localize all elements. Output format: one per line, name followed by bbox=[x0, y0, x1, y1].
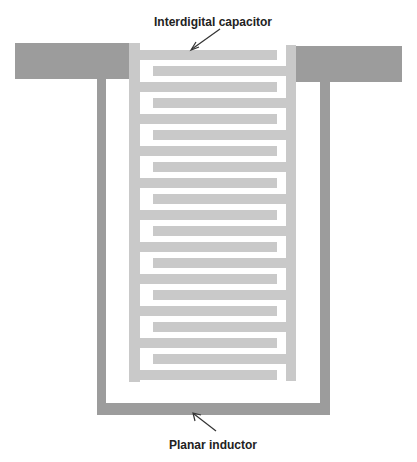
right-finger bbox=[153, 194, 286, 204]
capacitor-arrow bbox=[192, 29, 220, 49]
right-finger bbox=[153, 258, 286, 268]
lc-resonator-diagram bbox=[0, 0, 417, 462]
right-finger bbox=[153, 290, 286, 300]
left-finger bbox=[140, 178, 277, 188]
left-finger bbox=[140, 146, 277, 156]
inductor-arrow bbox=[194, 414, 216, 431]
capacitor-arrowhead-icon bbox=[191, 42, 199, 50]
right-finger bbox=[153, 226, 286, 236]
interdigital-capacitor bbox=[129, 43, 296, 382]
left-finger bbox=[140, 370, 277, 380]
inductor-left-leg bbox=[97, 43, 106, 415]
left-finger bbox=[140, 82, 277, 92]
right-finger bbox=[153, 66, 286, 76]
inductor-right-leg bbox=[320, 46, 330, 415]
right-finger bbox=[153, 162, 286, 172]
right-bus bbox=[286, 45, 296, 381]
right-finger bbox=[153, 322, 286, 332]
left-finger bbox=[140, 210, 277, 220]
left-finger bbox=[140, 114, 277, 124]
left-finger bbox=[140, 242, 277, 252]
right-finger bbox=[153, 130, 286, 140]
left-pad bbox=[15, 43, 129, 79]
right-finger bbox=[153, 354, 286, 364]
right-pad bbox=[296, 46, 402, 82]
left-finger bbox=[140, 338, 277, 348]
capacitor-label: Interdigital capacitor bbox=[154, 15, 272, 29]
left-bus bbox=[129, 43, 140, 382]
left-finger bbox=[140, 306, 277, 316]
left-finger bbox=[140, 274, 277, 284]
inductor-bottom-bar bbox=[97, 403, 330, 415]
left-finger bbox=[140, 50, 277, 60]
right-finger bbox=[153, 98, 286, 108]
inductor-label: Planar inductor bbox=[169, 438, 257, 452]
